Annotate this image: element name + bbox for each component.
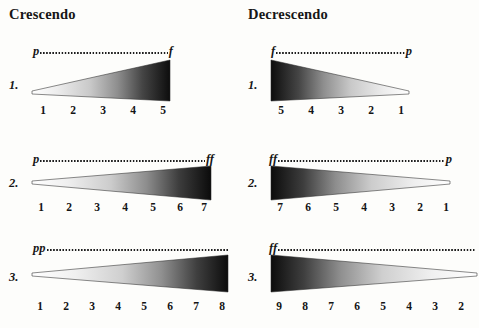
row-index-label: 2. (248, 176, 257, 191)
row-index-label: 2. (9, 176, 18, 191)
dotted-extension-line (47, 243, 230, 254)
column-header-crescendo: Crescendo (9, 6, 76, 23)
dotted-extension-line (40, 46, 168, 57)
row-index-label: 1. (248, 78, 257, 93)
scale-tick: 2 (356, 104, 386, 116)
scale-tick: 4 (111, 201, 139, 213)
dynamic-rule: pp (33, 241, 230, 254)
scale-tick: 2 (55, 201, 83, 213)
dotted-extension-line (40, 154, 205, 165)
scale-tick: 1 (434, 201, 458, 213)
dotted-extension-line (278, 154, 445, 165)
scale-tick: 7 (266, 201, 294, 213)
dynamic-mark-start: ff (269, 243, 277, 254)
scale-tick: 1 (27, 201, 55, 213)
intensity-scale: 7 6 5 4 3 2 1 (266, 201, 458, 213)
scale-tick: 7 (183, 300, 209, 312)
dynamic-rule: p f (33, 44, 173, 57)
scale-tick: 8 (209, 300, 235, 312)
scale-tick: 4 (296, 104, 326, 116)
scale-tick: 3 (88, 104, 118, 116)
scale-tick: 5 (322, 201, 350, 213)
scale-tick: 1 (27, 300, 53, 312)
intensity-scale: 1 2 3 4 5 (28, 104, 178, 116)
dynamic-rule: ff (269, 241, 476, 254)
scale-tick: 5 (131, 300, 157, 312)
dynamic-mark-start: pp (33, 243, 46, 254)
scale-tick: 9 (266, 300, 292, 312)
scale-tick: 2 (406, 201, 434, 213)
scale-tick: 3 (326, 104, 356, 116)
dynamic-rule: f p (271, 44, 412, 57)
scale-tick: 3 (378, 201, 406, 213)
scale-tick: 3 (83, 201, 111, 213)
scale-tick: 2 (53, 300, 79, 312)
dotted-extension-line (276, 46, 405, 57)
intensity-scale: 5 4 3 2 1 (266, 104, 416, 116)
intensity-scale: 1 2 3 4 5 6 7 (27, 201, 219, 213)
scale-tick: 2 (58, 104, 88, 116)
dynamic-mark-start: f (271, 46, 275, 57)
scale-tick: 6 (157, 300, 183, 312)
scale-tick: 7 (193, 201, 215, 213)
scale-tick: 6 (167, 201, 193, 213)
dynamic-mark-start: p (33, 46, 39, 57)
scale-tick: 1 (386, 104, 416, 116)
dynamic-rule: p ff (33, 152, 214, 165)
scale-tick: 5 (139, 201, 167, 213)
dotted-extension-line (278, 243, 475, 254)
scale-tick: 4 (118, 104, 148, 116)
scale-tick: 5 (148, 104, 178, 116)
dynamic-mark-start: p (33, 154, 39, 165)
dynamic-mark-start: ff (269, 154, 277, 165)
scale-tick: 7 (318, 300, 344, 312)
scale-tick: 5 (266, 104, 296, 116)
intensity-scale: 1 2 3 4 5 6 7 8 (27, 300, 235, 312)
scale-tick: 4 (396, 300, 422, 312)
scale-tick: 3 (79, 300, 105, 312)
scale-tick: 3 (422, 300, 448, 312)
decrescendo-hairpin-wedge (271, 166, 450, 202)
dynamic-mark-end: p (406, 46, 412, 57)
crescendo-hairpin-wedge (32, 60, 170, 103)
dynamic-mark-end: ff (206, 154, 214, 165)
scale-tick: 1 (28, 104, 58, 116)
intensity-scale: 9 8 7 6 5 4 3 2 (266, 300, 476, 312)
scale-tick: 4 (105, 300, 131, 312)
row-index-label: 3. (9, 270, 18, 285)
crescendo-hairpin-wedge (32, 166, 211, 202)
dynamic-rule: ff p (269, 152, 452, 165)
scale-tick: 8 (292, 300, 318, 312)
scale-tick: 6 (344, 300, 370, 312)
dynamic-mark-end: p (446, 154, 452, 165)
column-header-decrescendo: Decrescendo (248, 6, 328, 23)
decrescendo-hairpin-wedge (271, 60, 409, 103)
dynamic-mark-end: f (169, 46, 173, 57)
scale-tick: 6 (294, 201, 322, 213)
dynamics-diagram-page: Crescendo Decrescendo 1. p f (0, 0, 479, 328)
decrescendo-hairpin-wedge (271, 255, 477, 295)
scale-tick: 2 (448, 300, 474, 312)
scale-tick: 5 (370, 300, 396, 312)
row-index-label: 1. (9, 78, 18, 93)
crescendo-hairpin-wedge (32, 255, 228, 295)
row-index-label: 3. (248, 270, 257, 285)
scale-tick: 4 (350, 201, 378, 213)
